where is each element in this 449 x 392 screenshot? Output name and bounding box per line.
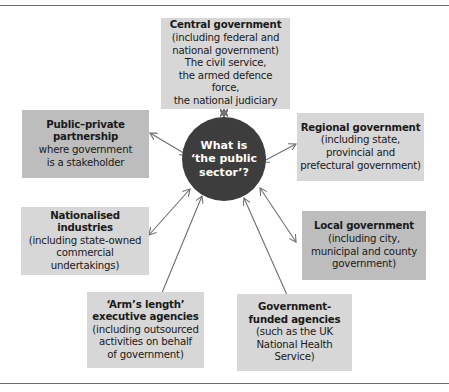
arrow-arms-length <box>159 196 202 300</box>
node-title: funded agencies <box>240 314 349 327</box>
node-arms-length-agencies: ‘Arm’s length’ executive agencies (inclu… <box>87 292 204 368</box>
node-body-line: (including outsourced <box>90 324 201 337</box>
center-question: What is ‘the public sector’? <box>182 117 266 201</box>
node-title: Regional government <box>300 122 421 135</box>
node-local-government: Local government (including city, munici… <box>302 211 426 280</box>
node-body-line: National Health <box>240 339 349 352</box>
node-body-line: commercial undertakings) <box>24 247 146 272</box>
node-body-line: (including city, <box>305 233 423 246</box>
node-regional-government: Regional government (including state, pr… <box>297 113 424 181</box>
node-government-funded-agencies: Government- funded agencies (such as the… <box>237 294 352 371</box>
node-title: Central government <box>164 19 287 32</box>
arrow-ppp <box>150 133 187 155</box>
node-body-line: municipal and county <box>305 246 423 259</box>
node-body-line: (including state-owned <box>24 235 146 248</box>
node-body-line: prefectural government) <box>300 160 421 173</box>
node-title: Local government <box>305 220 423 233</box>
node-body-line: the national judiciary <box>164 95 287 108</box>
node-title: Public–private <box>25 119 146 132</box>
node-body-line: is a stakeholder <box>25 157 146 170</box>
node-body-line: (including federal and <box>164 32 287 45</box>
center-line: ‘the public <box>191 152 257 166</box>
node-body-line: The civil service, <box>164 57 287 70</box>
node-body-line: (such as the UK <box>240 326 349 339</box>
node-title: Government- <box>240 301 349 314</box>
node-central-government: Central government (including federal an… <box>161 18 290 109</box>
node-title: ‘Arm’s length’ <box>90 299 201 312</box>
node-title: executive agencies <box>90 311 201 324</box>
center-line: What is <box>201 139 248 153</box>
arrow-local <box>260 188 296 242</box>
node-body-line: the armed defence force, <box>164 70 287 95</box>
node-title: industries <box>24 222 146 235</box>
node-body-line: where government <box>25 144 146 157</box>
center-line: sector’? <box>199 166 249 180</box>
arrow-nationalised <box>149 189 190 235</box>
arrow-regional <box>262 144 296 162</box>
node-body-line: Service) <box>240 351 349 364</box>
node-body-line: provincial and <box>300 147 421 160</box>
arrow-gov-funded <box>244 198 291 304</box>
node-nationalised-industries: Nationalised industries (including state… <box>21 207 149 275</box>
node-body-line: government) <box>305 258 423 271</box>
node-body-line: (including state, <box>300 134 421 147</box>
node-title: partnership <box>25 131 146 144</box>
node-body-line: activities on behalf <box>90 336 201 349</box>
node-public-private-partnership: Public–private partnership where governm… <box>22 110 149 178</box>
node-title: Nationalised <box>24 210 146 223</box>
node-body-line: of government) <box>90 349 201 362</box>
node-body-line: national government) <box>164 45 287 58</box>
